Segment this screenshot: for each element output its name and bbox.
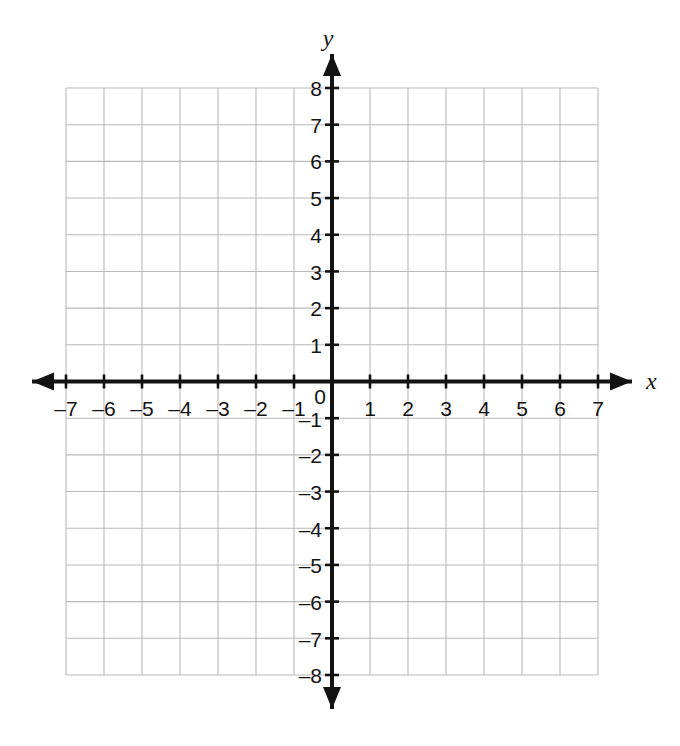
x-tick-label: –5: [130, 398, 153, 419]
x-tick-label: 5: [516, 398, 528, 419]
x-tick-label: –4: [168, 398, 191, 419]
x-axis-arrow-right: [610, 373, 632, 391]
y-tick-label: –2: [299, 445, 322, 466]
y-tick-label: –5: [299, 555, 322, 576]
x-axis-label: x: [646, 369, 657, 393]
x-tick-label: 4: [478, 398, 490, 419]
x-axis-arrow-left: [32, 373, 54, 391]
y-tick-label: 6: [310, 151, 322, 172]
y-tick-label: 5: [310, 188, 322, 209]
y-tick-label: –7: [299, 629, 322, 650]
x-tick-label: 7: [592, 398, 604, 419]
y-axis-label: y: [323, 26, 334, 50]
y-tick-label: 2: [310, 298, 322, 319]
y-tick-label: –4: [299, 519, 322, 540]
origin-label: 0: [314, 386, 326, 407]
coordinate-plane: –7–6–5–4–3–2–1123456787654321–1–2–3–4–5–…: [0, 0, 680, 746]
y-axis-arrow-up: [323, 54, 341, 76]
x-tick-label: –6: [92, 398, 115, 419]
x-tick-label: –7: [54, 398, 77, 419]
x-tick-label: –3: [206, 398, 229, 419]
y-tick-label: 3: [310, 262, 322, 283]
x-tick-label: 6: [554, 398, 566, 419]
y-tick-label: 1: [310, 335, 322, 356]
y-tick-label: –1: [299, 409, 322, 430]
x-tick-label: 2: [402, 398, 414, 419]
y-tick-label: –3: [299, 482, 322, 503]
y-tick-label: 4: [310, 225, 322, 246]
x-tick-label: –2: [244, 398, 267, 419]
axes: [32, 54, 632, 709]
x-tick-label: 1: [364, 398, 376, 419]
y-tick-label: 8: [310, 78, 322, 99]
y-tick-label: –8: [299, 665, 322, 686]
x-tick-label: 3: [440, 398, 452, 419]
y-tick-label: –6: [299, 592, 322, 613]
y-tick-label: 7: [310, 115, 322, 136]
y-axis-arrow-down: [323, 687, 341, 709]
coordinate-grid: [0, 0, 680, 746]
